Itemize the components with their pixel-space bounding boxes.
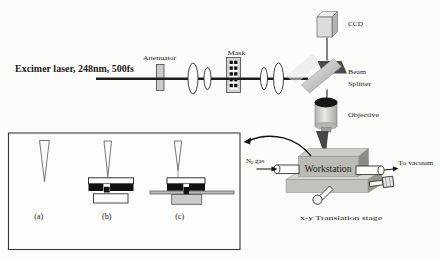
mask-plate-c-top <box>167 178 205 184</box>
to-vacuum-label: To vacuum <box>398 159 434 167</box>
lens-1 <box>188 63 198 94</box>
outlet-tube <box>356 166 381 175</box>
micrometer-y-head <box>313 195 322 204</box>
translation-stage-label: x-y Translation stage <box>300 214 382 222</box>
mask: Mask <box>227 49 247 93</box>
ccd-camera: CCD <box>317 12 363 61</box>
sample-tip-c <box>184 187 190 195</box>
sample-block-c <box>172 195 202 205</box>
workstation-top-face <box>299 149 369 157</box>
outlet-arrow-line <box>384 169 394 170</box>
lens-2 <box>204 68 211 90</box>
panel-c-label: (c) <box>175 212 184 221</box>
ccd-front-face <box>317 17 332 37</box>
objective-lens: Objective <box>315 90 380 133</box>
panel-b-label: (b) <box>102 212 112 221</box>
beam-splitter-assembly: Beam Splitter <box>286 54 372 93</box>
inset-pointer-arrow <box>244 136 312 156</box>
inset-arrow-head <box>244 138 252 145</box>
objective-top <box>315 98 338 108</box>
ccd-label: CCD <box>348 20 363 28</box>
workstation-label: Workstation <box>305 164 352 174</box>
objective-label: Objective <box>348 111 379 119</box>
gas-inlet: N2gas <box>246 157 299 174</box>
translation-stage: x-y Translation stage <box>286 171 394 222</box>
attenuator-label: Attenuator <box>143 54 177 62</box>
lens-4 <box>274 63 284 94</box>
attenuator: Attenuator <box>143 54 177 91</box>
panel-a-label: (a) <box>34 212 43 221</box>
laser-source-label: Excimer laser, 248nm, 500fs <box>15 62 135 74</box>
figure-laser-micromachining-setup: Excimer laser, 248nm, 500fs Attenuator M… <box>0 0 440 259</box>
cantilever-rod-c <box>150 191 234 194</box>
sample-tip-b <box>104 187 110 193</box>
micrometer-x-head <box>382 176 394 187</box>
mask-label: Mask <box>228 49 247 57</box>
mask-plate-b-black <box>89 184 134 191</box>
inset-arrow-curve <box>249 136 311 156</box>
diagram-canvas: Excimer laser, 248nm, 500fs Attenuator M… <box>0 0 440 259</box>
outlet-arrow-head <box>393 166 399 171</box>
beam-splitter-label-2: Splitter <box>348 80 372 88</box>
beam-splitter-label-1: Beam <box>348 68 367 76</box>
inset-panel: (a) (b) (c) <box>9 133 241 250</box>
outlet-tube-cap <box>378 166 384 175</box>
lens-3 <box>261 68 268 90</box>
mask-plate-b-top <box>89 178 134 184</box>
n2-gas-label: N2gas <box>246 157 265 166</box>
substrate-b <box>94 194 129 203</box>
